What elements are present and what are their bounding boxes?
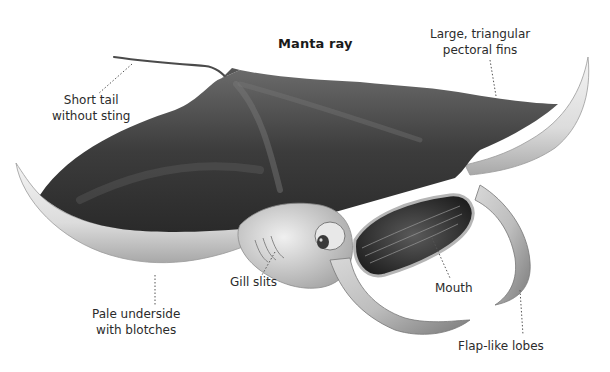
label-flap-like-lobes: Flap-like lobes (458, 338, 544, 354)
cephalic-lobe-right (475, 185, 530, 305)
label-line: Flap-like lobes (458, 338, 544, 354)
label-line: pectoral fins (430, 42, 530, 58)
label-line: Pale underside (92, 306, 180, 322)
label-line: with blotches (92, 322, 180, 338)
label-pale-underside: Pale underside with blotches (92, 306, 180, 338)
label-mouth: Mouth (435, 280, 473, 296)
label-line: Short tail (52, 92, 130, 108)
label-pectoral-fins: Large, triangular pectoral fins (430, 26, 530, 58)
label-gill-slits: Gill slits (230, 274, 277, 290)
label-line: Gill slits (230, 274, 277, 290)
label-line: Mouth (435, 280, 473, 296)
label-line: without sting (52, 108, 130, 124)
leader-tail (98, 64, 132, 94)
leader-fins (490, 60, 496, 96)
label-short-tail: Short tail without sting (52, 92, 130, 124)
diagram-title: Manta ray (278, 36, 353, 51)
eye (315, 222, 345, 250)
label-line: Large, triangular (430, 26, 530, 42)
manta-ray-diagram: Manta ray Short tail without sting Large… (0, 0, 610, 372)
tail (114, 57, 232, 84)
mouth (355, 195, 473, 276)
leader-lobes (520, 290, 523, 335)
